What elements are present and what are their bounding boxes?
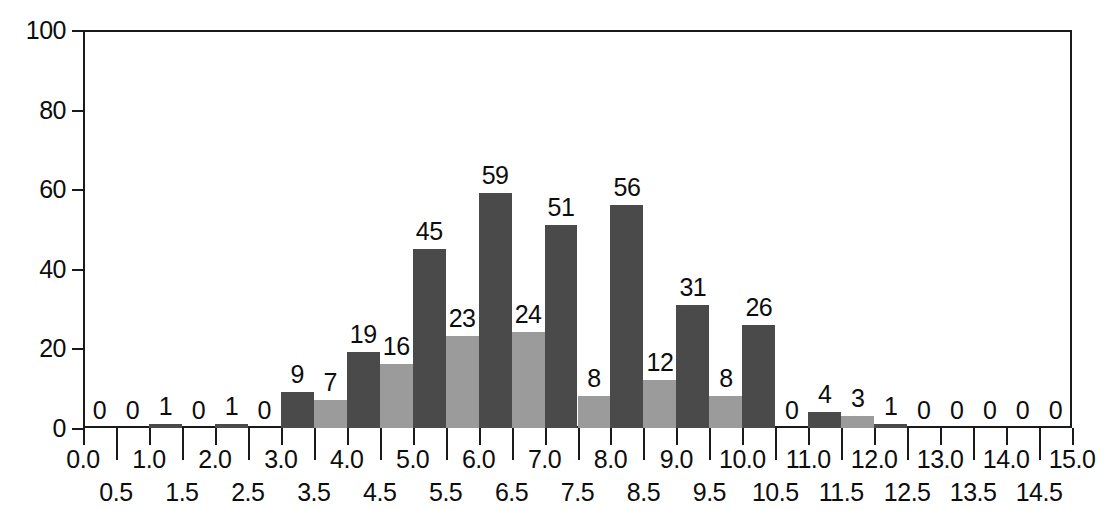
histogram-bar [643,380,676,428]
x-axis-label-upper: 15.0 [1049,447,1096,472]
x-axis-tick [709,428,711,460]
y-axis-tick [72,189,83,191]
x-axis-tick [1072,428,1074,445]
x-axis-label-upper: 0.0 [66,447,99,472]
x-axis-tick [248,428,250,460]
x-axis-label-upper: 14.0 [983,447,1030,472]
histogram-bar [446,336,479,428]
histogram-bar [610,205,643,428]
x-axis-label-upper: 9.0 [660,447,693,472]
y-axis-tick-label: 80 [39,97,66,122]
histogram-bar [380,364,413,428]
x-axis-tick [215,428,217,445]
x-axis-label-lower: 3.5 [297,480,330,505]
x-axis-label-lower: 4.5 [363,480,396,505]
x-axis-label-upper: 7.0 [528,447,561,472]
x-axis-tick [742,428,744,445]
x-axis-tick [83,428,85,445]
y-axis-tick [72,428,83,430]
y-axis-tick-label: 100 [26,18,66,43]
x-axis-label-upper: 12.0 [851,447,898,472]
x-axis-label-lower: 5.5 [429,480,462,505]
x-axis-label-lower: 14.5 [1016,480,1063,505]
x-axis-tick [1006,428,1008,445]
x-axis-tick [610,428,612,445]
x-axis-tick [314,428,316,460]
bar-value-label: 0 [1016,398,1096,423]
x-axis-tick [479,428,481,445]
x-axis-tick [380,428,382,460]
x-axis-label-upper: 13.0 [917,447,964,472]
x-axis-tick [446,428,448,460]
histogram-bar [314,400,347,428]
x-axis-label-lower: 11.5 [819,480,864,505]
y-axis-tick-label: 40 [39,256,66,281]
histogram-bar [347,352,380,428]
x-axis-tick [413,428,415,445]
bar-value-label: 45 [389,219,469,244]
x-axis-label-lower: 0.5 [99,480,132,505]
x-axis-label-lower: 1.5 [165,480,198,505]
histogram-bar [413,249,446,428]
histogram-bar [512,332,545,428]
y-axis-tick [72,348,83,350]
histogram-bar [281,392,314,428]
bar-value-label: 56 [587,175,667,200]
y-axis-tick [72,110,83,112]
x-axis-label-upper: 10.0 [719,447,766,472]
x-axis-tick [808,428,810,445]
y-axis-tick-label: 60 [39,177,66,202]
x-axis-tick [676,428,678,445]
x-axis-tick [841,428,843,460]
x-axis-tick [643,428,645,460]
x-axis-label-lower: 6.5 [495,480,528,505]
bar-value-label: 26 [719,295,799,320]
bar-value-label: 59 [455,163,535,188]
y-axis-tick [72,269,83,271]
x-axis-tick [512,428,514,460]
x-axis-tick [116,428,118,460]
x-axis-tick [775,428,777,460]
x-axis-label-upper: 6.0 [462,447,495,472]
x-axis-tick [545,428,547,445]
x-axis-label-upper: 1.0 [132,447,165,472]
histogram-bar [709,396,742,428]
x-axis-label-upper: 3.0 [264,447,297,472]
x-axis-label-lower: 7.5 [561,480,594,505]
x-axis-label-lower: 9.5 [693,480,726,505]
x-axis-label-upper: 2.0 [198,447,231,472]
x-axis-label-upper: 11.0 [786,447,831,472]
histogram-bar [545,225,578,428]
x-axis-label-lower: 2.5 [231,480,264,505]
x-axis-label-lower: 13.5 [950,480,997,505]
x-axis-label-upper: 4.0 [330,447,363,472]
x-axis-tick [347,428,349,445]
y-axis-tick-label: 20 [39,336,66,361]
histogram-figure: 020406080100 001010971916452359245185612… [0,0,1117,510]
x-axis-label-lower: 12.5 [884,480,931,505]
x-axis-tick [907,428,909,460]
histogram-bar [578,396,611,428]
bars-layer: 0010109719164523592451856123182604310000… [83,30,1072,428]
x-axis-tick [182,428,184,460]
x-axis-label-upper: 5.0 [396,447,429,472]
x-axis-tick [1039,428,1041,460]
x-axis-tick [149,428,151,445]
y-axis-tick [72,30,83,32]
histogram-bar [808,412,841,428]
x-axis-tick [578,428,580,460]
x-axis-tick [874,428,876,445]
x-axis-label-lower: 8.5 [627,480,660,505]
x-axis-tick [281,428,283,445]
x-axis-tick [940,428,942,445]
x-axis: 0.01.02.03.04.05.06.07.08.09.010.011.012… [83,428,1072,510]
x-axis-tick [973,428,975,460]
x-axis-label-lower: 10.5 [752,480,799,505]
x-axis-label-upper: 8.0 [594,447,627,472]
